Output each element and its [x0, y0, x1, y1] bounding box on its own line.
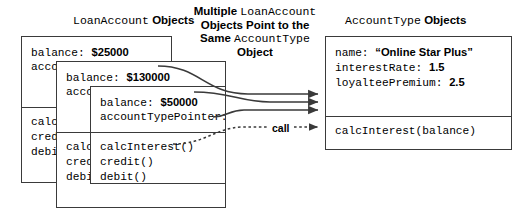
pointer-arrow-box-3: [213, 110, 318, 117]
connector-layer: [0, 0, 527, 223]
pointer-arrow-box-1: [158, 66, 318, 94]
call-dashed-line-source: [173, 127, 268, 144]
object-diagram: LoanAccount Objects AccountType Objects …: [0, 0, 527, 223]
